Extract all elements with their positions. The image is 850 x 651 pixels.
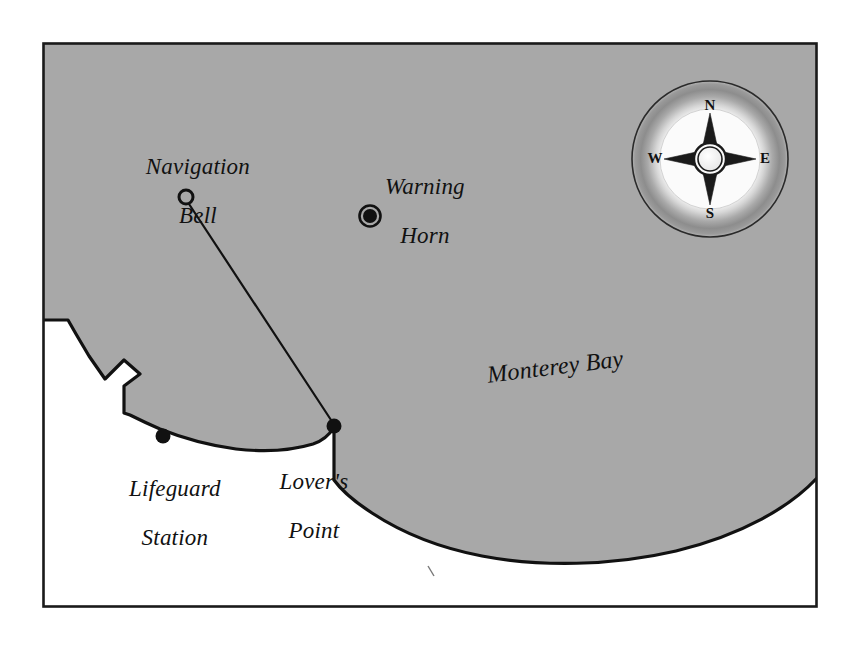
compass-rose[interactable]: N S E W — [632, 81, 788, 237]
label-lovers-point: Lover's Point — [202, 445, 402, 569]
compass-hub-inner-ring — [698, 147, 722, 171]
map-canvas: N S E W Navigation Bell Warning Horn Lif… — [0, 0, 850, 651]
compass-label-west: W — [648, 150, 663, 166]
label-lovers-point-line1: Lover's — [279, 469, 348, 494]
lovers-point-marker[interactable] — [327, 419, 342, 434]
label-navigation-bell-line1: Navigation — [146, 154, 250, 179]
label-lifeguard-station-line2: Station — [142, 525, 209, 550]
label-navigation-bell: Navigation Bell — [71, 130, 301, 254]
lifeguard-station-marker[interactable] — [156, 429, 171, 444]
label-warning-horn-line1: Warning — [385, 174, 465, 199]
label-monterey-bay-text: Monterey Bay — [486, 345, 625, 387]
compass-label-south: S — [706, 205, 714, 221]
label-warning-horn-line2: Horn — [400, 223, 449, 248]
compass-label-east: E — [760, 150, 770, 166]
label-warning-horn: Warning Horn — [303, 150, 523, 274]
label-navigation-bell-line2: Bell — [179, 203, 217, 228]
compass-label-north: N — [705, 97, 716, 113]
label-lovers-point-line2: Point — [288, 518, 339, 543]
